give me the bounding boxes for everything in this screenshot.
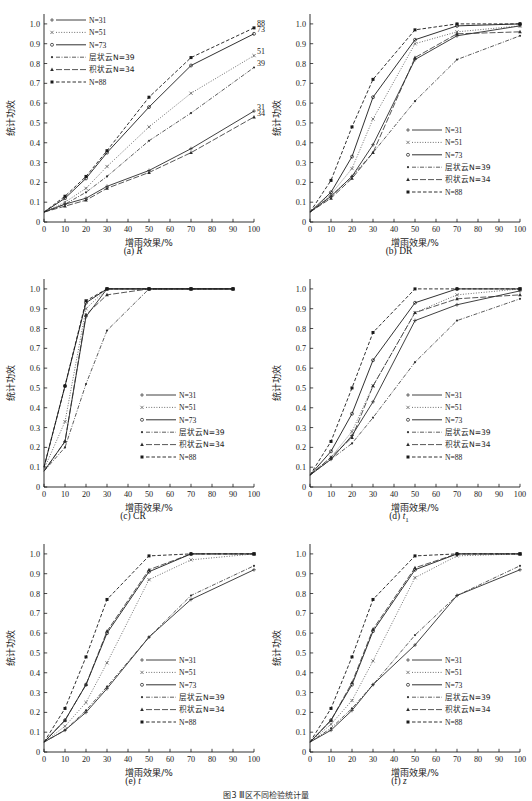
caption-a: (a) R xyxy=(0,246,266,256)
caption-e-prefix: (e) xyxy=(125,776,136,786)
caption-f-prefix: (f) xyxy=(391,776,401,786)
caption-d-prefix: (d) xyxy=(389,511,400,521)
svg-text:0.1: 0.1 xyxy=(30,198,40,207)
svg-text:80: 80 xyxy=(208,755,216,764)
svg-text:0.6: 0.6 xyxy=(296,629,306,638)
svg-text:40: 40 xyxy=(124,755,132,764)
svg-text:0.7: 0.7 xyxy=(296,609,306,618)
svg-text:0.4: 0.4 xyxy=(296,139,306,148)
svg-text:0: 0 xyxy=(42,755,46,764)
svg-text:50: 50 xyxy=(145,225,153,234)
caption-a-prefix: (a) xyxy=(124,246,135,256)
svg-text:70: 70 xyxy=(453,490,461,499)
svg-text:0.6: 0.6 xyxy=(30,99,40,108)
svg-text:0.9: 0.9 xyxy=(296,40,306,49)
svg-text:N=51: N=51 xyxy=(445,138,463,147)
svg-text:积状云N=34: 积状云N=34 xyxy=(445,439,491,449)
svg-text:30: 30 xyxy=(369,490,377,499)
svg-text:70: 70 xyxy=(187,225,195,234)
svg-text:30: 30 xyxy=(369,225,377,234)
svg-text:51: 51 xyxy=(257,47,265,56)
svg-text:34: 34 xyxy=(257,109,265,118)
svg-text:70: 70 xyxy=(187,490,195,499)
svg-text:80: 80 xyxy=(474,755,482,764)
caption-b-prefix: (b) xyxy=(386,246,397,256)
svg-text:0.5: 0.5 xyxy=(296,384,306,393)
svg-text:0: 0 xyxy=(302,483,306,492)
caption-b: (b) DR xyxy=(266,246,532,256)
svg-text:统计功效: 统计功效 xyxy=(271,630,282,666)
svg-text:0: 0 xyxy=(308,755,312,764)
svg-text:N=31: N=31 xyxy=(179,391,197,400)
svg-text:N=73: N=73 xyxy=(179,416,197,425)
svg-text:50: 50 xyxy=(145,490,153,499)
svg-text:80: 80 xyxy=(208,225,216,234)
svg-text:层状云N=39: 层状云N=39 xyxy=(179,692,225,702)
svg-text:50: 50 xyxy=(411,755,419,764)
svg-text:90: 90 xyxy=(495,225,503,234)
svg-text:30: 30 xyxy=(103,755,111,764)
svg-text:0.7: 0.7 xyxy=(30,79,40,88)
svg-text:39: 39 xyxy=(257,59,265,68)
svg-text:N=88: N=88 xyxy=(179,718,197,727)
svg-text:统计功效: 统计功效 xyxy=(271,365,282,401)
svg-text:层状云N=39: 层状云N=39 xyxy=(445,162,491,172)
svg-text:20: 20 xyxy=(348,490,356,499)
svg-text:100: 100 xyxy=(514,490,526,499)
svg-text:0.8: 0.8 xyxy=(30,590,40,599)
svg-text:60: 60 xyxy=(432,755,440,764)
svg-text:0: 0 xyxy=(36,218,40,227)
svg-text:60: 60 xyxy=(432,225,440,234)
svg-text:0.4: 0.4 xyxy=(30,404,40,413)
svg-text:N=73: N=73 xyxy=(445,151,463,160)
svg-text:0: 0 xyxy=(42,225,46,234)
svg-text:1.0: 1.0 xyxy=(296,285,306,294)
svg-text:100: 100 xyxy=(514,225,526,234)
svg-text:统计功效: 统计功效 xyxy=(5,630,16,666)
svg-text:0.5: 0.5 xyxy=(30,384,40,393)
plot-d: 010203040506070809010000.10.20.30.40.50.… xyxy=(266,265,532,530)
caption-b-symbol: DR xyxy=(399,246,412,256)
svg-text:0.2: 0.2 xyxy=(296,178,306,187)
caption-e-symbol: t xyxy=(138,776,141,786)
subplot-d: 010203040506070809010000.10.20.30.40.50.… xyxy=(266,265,532,530)
svg-text:30: 30 xyxy=(369,755,377,764)
svg-text:88: 88 xyxy=(257,19,265,28)
svg-text:0.4: 0.4 xyxy=(296,669,306,678)
svg-text:0: 0 xyxy=(36,483,40,492)
svg-text:80: 80 xyxy=(208,490,216,499)
svg-text:20: 20 xyxy=(348,755,356,764)
svg-text:0.2: 0.2 xyxy=(296,443,306,452)
svg-text:0.7: 0.7 xyxy=(30,344,40,353)
caption-f: (f) z xyxy=(266,776,532,786)
svg-text:0.1: 0.1 xyxy=(30,463,40,472)
svg-text:0: 0 xyxy=(302,748,306,757)
svg-text:0.7: 0.7 xyxy=(296,79,306,88)
svg-text:50: 50 xyxy=(145,755,153,764)
svg-text:N=31: N=31 xyxy=(445,656,463,665)
svg-text:0.3: 0.3 xyxy=(296,689,306,698)
caption-f-symbol: z xyxy=(403,776,407,786)
svg-text:0.2: 0.2 xyxy=(30,443,40,452)
svg-text:0.8: 0.8 xyxy=(296,325,306,334)
svg-text:100: 100 xyxy=(248,755,260,764)
svg-text:90: 90 xyxy=(495,490,503,499)
svg-text:10: 10 xyxy=(327,225,335,234)
svg-text:40: 40 xyxy=(390,490,398,499)
svg-text:积状云N=34: 积状云N=34 xyxy=(445,704,491,714)
caption-a-symbol: R xyxy=(137,246,143,256)
svg-text:0.3: 0.3 xyxy=(30,689,40,698)
svg-text:90: 90 xyxy=(229,755,237,764)
plot-a: 010203040506070809010000.10.20.30.40.50.… xyxy=(0,0,266,265)
svg-text:0.3: 0.3 xyxy=(30,424,40,433)
svg-text:1.0: 1.0 xyxy=(296,20,306,29)
svg-text:0: 0 xyxy=(36,748,40,757)
svg-text:积状云N=34: 积状云N=34 xyxy=(179,439,225,449)
svg-text:N=88: N=88 xyxy=(89,78,107,87)
svg-text:0.6: 0.6 xyxy=(296,99,306,108)
svg-text:0.6: 0.6 xyxy=(30,629,40,638)
svg-text:40: 40 xyxy=(390,225,398,234)
svg-text:100: 100 xyxy=(514,755,526,764)
svg-text:0.1: 0.1 xyxy=(296,728,306,737)
svg-text:0.2: 0.2 xyxy=(30,708,40,717)
